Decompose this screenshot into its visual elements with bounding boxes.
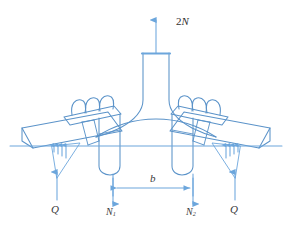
label-dimension-b: b xyxy=(150,173,156,184)
diagram-svg xyxy=(0,0,292,234)
label-inner-right: N2 xyxy=(186,207,196,218)
label-inner-left: N1 xyxy=(106,207,116,218)
right-assembly xyxy=(170,96,270,175)
left-assembly xyxy=(22,96,122,175)
label-left-reaction: Q xyxy=(51,204,59,215)
right-distributed-load xyxy=(212,143,240,178)
label-top-force: 2N xyxy=(176,16,189,27)
label-right-reaction: Q xyxy=(230,204,238,215)
left-distributed-load xyxy=(52,143,80,178)
figure-canvas: 2N Q Q N1 N2 b xyxy=(0,0,292,234)
central-stem xyxy=(96,53,216,137)
